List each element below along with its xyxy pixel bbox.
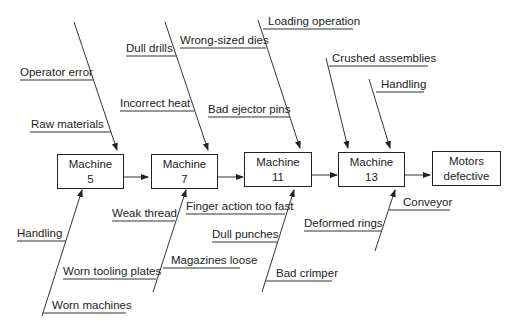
machine-13-box: Machine 13 xyxy=(338,152,405,187)
cause-label: Bad crimper xyxy=(276,267,338,280)
machine-7-label: Machine xyxy=(152,157,217,172)
cause-label: Finger action too fast xyxy=(186,200,293,213)
cause-label: Handling xyxy=(17,227,62,240)
machine-13-label: Machine xyxy=(339,155,404,170)
cause-label: Bad ejector pins xyxy=(208,103,290,116)
cause-label: Worn machines xyxy=(52,299,132,312)
effect-line2: defective xyxy=(433,169,500,184)
machine-11-label: Machine xyxy=(245,155,311,170)
cause-label: Wrong-sized dies xyxy=(180,34,269,47)
cause-label: Weak thread xyxy=(112,207,177,220)
cause-label: Crushed assemblies xyxy=(332,52,436,65)
cause-label: Dull drills xyxy=(126,42,173,55)
machine-5-box: Machine 5 xyxy=(57,154,124,189)
machine-13-number: 13 xyxy=(339,170,404,185)
machine-11-number: 11 xyxy=(245,170,311,185)
cause-label: Dull punches xyxy=(212,228,278,241)
cause-label: Loading operation xyxy=(268,15,360,28)
cause-label: Conveyor xyxy=(403,196,452,209)
machine-7-box: Machine 7 xyxy=(151,154,218,189)
effect-line1: Motors xyxy=(433,154,500,169)
cause-label: Incorrect heat xyxy=(120,97,190,110)
machine-7-number: 7 xyxy=(152,172,217,187)
cause-label: Deformed rings xyxy=(304,217,383,230)
machine-11-box: Machine 11 xyxy=(244,152,312,187)
cause-label: Magazines loose xyxy=(171,254,257,267)
cause-label: Operator error xyxy=(20,66,93,79)
machine-5-number: 5 xyxy=(58,172,123,187)
effect-box: Motors defective xyxy=(432,151,501,186)
machine-5-label: Machine xyxy=(58,157,123,172)
cause-label: Handling xyxy=(381,78,426,91)
cause-label: Raw materials xyxy=(31,118,104,131)
cause-label: Worn tooling plates xyxy=(63,265,161,278)
